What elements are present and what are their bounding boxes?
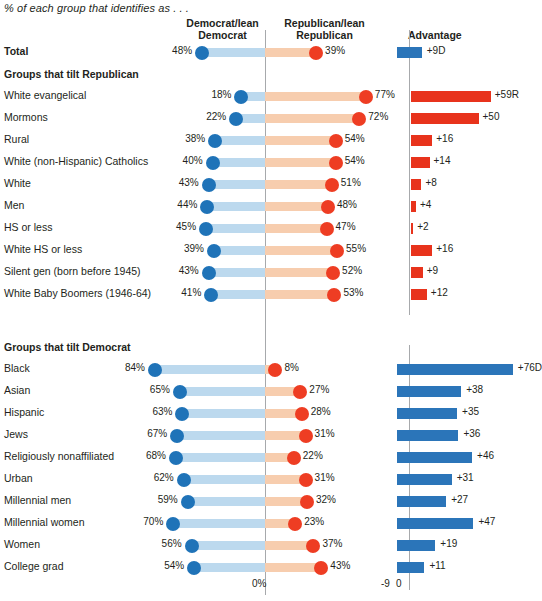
democrat-dot[interactable]: [148, 363, 162, 377]
advantage-value: +12: [431, 287, 448, 298]
advantage-bar[interactable]: [397, 364, 513, 375]
advantage-bar[interactable]: [397, 452, 472, 463]
democrat-dot[interactable]: [202, 178, 216, 192]
republican-value: 72%: [368, 111, 388, 122]
advantage-bar[interactable]: [397, 540, 435, 551]
democrat-value: 41%: [141, 287, 201, 298]
republican-dot[interactable]: [359, 90, 373, 104]
democrat-bar: [214, 246, 265, 255]
row-label: Men: [4, 199, 24, 211]
advantage-bar[interactable]: [411, 179, 422, 190]
republican-value: 28%: [311, 406, 331, 417]
democrat-dot[interactable]: [181, 495, 195, 509]
row-label: Millennial women: [4, 516, 85, 528]
democrat-dot[interactable]: [175, 407, 189, 421]
democrat-dot[interactable]: [187, 561, 201, 575]
advantage-bar[interactable]: [397, 518, 473, 529]
democrat-dot[interactable]: [207, 244, 221, 258]
chart-row: Men44%48%+4: [0, 195, 526, 217]
column-header-republican-line2: Republican: [272, 29, 377, 41]
chart-row: Religiously nonaffiliated68%22%+46: [0, 446, 526, 468]
column-header-republican-line1: Republican/lean: [272, 17, 377, 29]
advantage-bar[interactable]: [397, 430, 458, 441]
republican-value: 37%: [322, 538, 342, 549]
democrat-dot[interactable]: [166, 517, 180, 531]
chart-row: Women56%37%+19: [0, 534, 526, 556]
row-label: Religiously nonaffiliated: [4, 450, 114, 462]
republican-dot[interactable]: [300, 495, 314, 509]
republican-dot[interactable]: [352, 112, 366, 126]
advantage-bar[interactable]: [411, 157, 430, 168]
democrat-value: 45%: [136, 221, 196, 232]
republican-dot[interactable]: [329, 156, 343, 170]
republican-dot[interactable]: [326, 266, 340, 280]
democrat-value: 43%: [139, 265, 199, 276]
republican-dot[interactable]: [314, 561, 328, 575]
column-header-democrat-line2: Democrat: [175, 29, 270, 41]
democrat-value: 67%: [107, 428, 167, 439]
chart-row: White HS or less39%55%+16: [0, 239, 526, 261]
republican-dot[interactable]: [320, 222, 334, 236]
advantage-bar[interactable]: [411, 91, 491, 102]
advantage-bar[interactable]: [411, 135, 433, 146]
democrat-dot[interactable]: [229, 112, 243, 126]
democrat-dot[interactable]: [199, 222, 213, 236]
advantage-bar[interactable]: [397, 386, 461, 397]
democrat-value: 59%: [118, 494, 178, 505]
republican-bar: [265, 202, 328, 211]
republican-dot[interactable]: [299, 429, 313, 443]
advantage-bar[interactable]: [397, 47, 421, 58]
democrat-dot[interactable]: [234, 90, 248, 104]
advantage-value: +38: [466, 384, 483, 395]
democrat-dot[interactable]: [202, 266, 216, 280]
advantage-bar[interactable]: [411, 245, 433, 256]
advantage-value: +14: [434, 155, 451, 166]
democrat-dot[interactable]: [195, 46, 209, 60]
advantage-bar[interactable]: [397, 562, 424, 573]
advantage-bar[interactable]: [397, 408, 457, 419]
advantage-value: +50: [483, 111, 500, 122]
advantage-bar[interactable]: [411, 113, 479, 124]
advantage-bar[interactable]: [411, 223, 414, 234]
advantage-bar[interactable]: [397, 496, 446, 507]
advantage-bar[interactable]: [411, 289, 427, 300]
republican-dot[interactable]: [295, 407, 309, 421]
democrat-dot[interactable]: [169, 451, 183, 465]
advantage-bar[interactable]: [411, 201, 416, 212]
democrat-dot[interactable]: [170, 429, 184, 443]
democrat-dot[interactable]: [206, 156, 220, 170]
republican-dot[interactable]: [299, 473, 313, 487]
democrat-dot[interactable]: [204, 288, 218, 302]
republican-value: 47%: [336, 221, 356, 232]
democrat-dot[interactable]: [185, 539, 199, 553]
democrat-dot[interactable]: [173, 385, 187, 399]
republican-value: 27%: [309, 384, 329, 395]
republican-dot[interactable]: [293, 385, 307, 399]
republican-dot[interactable]: [327, 288, 341, 302]
advantage-value: +76D: [518, 362, 542, 373]
democrat-dot[interactable]: [208, 134, 222, 148]
republican-dot[interactable]: [321, 200, 335, 214]
advantage-bar[interactable]: [411, 267, 423, 278]
row-label: Mormons: [4, 111, 48, 123]
republican-value: 23%: [304, 516, 324, 527]
republican-dot[interactable]: [306, 539, 320, 553]
chart-row: Mormons22%72%+50: [0, 107, 526, 129]
democrat-dot[interactable]: [177, 473, 191, 487]
republican-value: 77%: [375, 89, 395, 100]
republican-dot[interactable]: [329, 134, 343, 148]
republican-dot[interactable]: [330, 244, 344, 258]
republican-bar: [265, 224, 327, 233]
republican-dot[interactable]: [288, 517, 302, 531]
democrat-value: 62%: [114, 472, 174, 483]
republican-dot[interactable]: [268, 363, 282, 377]
chart-row: Total48%39%+9D: [0, 41, 526, 63]
group-heading: Groups that tilt Republican: [4, 68, 139, 80]
republican-dot[interactable]: [287, 451, 301, 465]
chart-row: HS or less45%47%+2: [0, 217, 526, 239]
republican-dot[interactable]: [309, 46, 323, 60]
democrat-dot[interactable]: [200, 200, 214, 214]
democrat-bar: [176, 453, 265, 462]
advantage-bar[interactable]: [397, 474, 451, 485]
republican-dot[interactable]: [325, 178, 339, 192]
